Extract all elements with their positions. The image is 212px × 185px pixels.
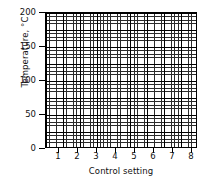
chart-container: Temperature, °C 0 50 100 150 200 1 2 3 4… [0,0,212,185]
y-axis-tick [39,148,45,149]
y-axis-tick-label: 0 [2,144,36,153]
y-axis-title: Temperature, °C [20,0,30,122]
x-axis-tick-label: 1 [51,152,65,161]
y-axis-tick-label: 100 [2,76,36,85]
x-axis-tick-label: 6 [146,152,160,161]
x-axis-tick-label: 4 [108,152,122,161]
y-axis-tick-label: 150 [2,42,36,51]
x-axis-tick-label: 2 [70,152,84,161]
x-axis-tick-label: 8 [184,152,198,161]
x-axis-tick-label: 3 [89,152,103,161]
x-axis-tick-label: 7 [165,152,179,161]
y-axis-tick-label: 200 [2,8,36,17]
plot-grid-area [45,12,197,148]
x-axis-title: Control setting [45,166,197,176]
y-axis-tick-label: 50 [2,110,36,119]
x-axis-tick-label: 5 [127,152,141,161]
